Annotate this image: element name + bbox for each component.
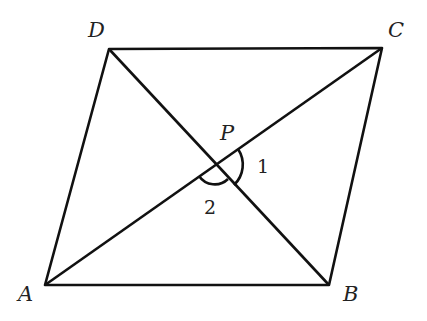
angle-1-arc [234, 149, 243, 185]
vertex-label-d: D [88, 20, 105, 41]
parallelogram-figure [0, 0, 427, 321]
geometry-diagram: D C A B P 1 2 [0, 0, 427, 321]
angle-label-1: 1 [257, 157, 269, 176]
intersection-label-p: P [220, 123, 234, 144]
angle-label-2: 2 [204, 198, 216, 217]
angle-2-arc [199, 176, 228, 184]
vertex-label-a: A [18, 284, 33, 305]
vertex-label-b: B [343, 284, 358, 305]
vertex-label-c: C [388, 20, 404, 41]
diagonal-ac [45, 48, 382, 285]
diagonal-db [109, 49, 329, 285]
